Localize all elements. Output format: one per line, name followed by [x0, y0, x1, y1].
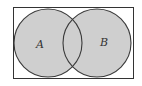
- set-a-label: A: [35, 38, 44, 51]
- set-b-label: B: [99, 36, 108, 49]
- venn-diagram: A B: [0, 0, 142, 86]
